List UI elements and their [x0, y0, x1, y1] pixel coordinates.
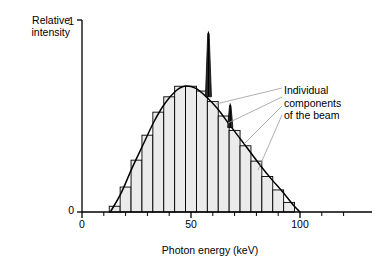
annotation-line-2: components — [284, 97, 380, 110]
annotation-line-1: Individual — [284, 84, 380, 97]
histogram-bar — [229, 130, 240, 212]
y-tick-label-0: 0 — [60, 205, 74, 216]
xray-spectrum-figure: Relative intensity 1 0 0 50 100 Photon e… — [0, 0, 384, 269]
histogram-bar — [207, 102, 218, 212]
y-tick-label-1: 1 — [60, 16, 74, 27]
histogram-bar — [251, 161, 262, 212]
leader-line — [243, 106, 282, 145]
leader-line — [258, 115, 282, 170]
x-axis-label: Photon energy (keV) — [120, 245, 300, 256]
histogram-bar — [164, 97, 175, 212]
histogram-bar — [196, 91, 207, 212]
x-tick-label-50: 50 — [181, 219, 201, 230]
histogram-bar — [273, 190, 284, 212]
histogram-bar — [142, 135, 153, 212]
x-tick-label-100: 100 — [286, 219, 314, 230]
histogram-bar — [186, 86, 197, 212]
histogram-bar — [240, 146, 251, 212]
histogram-bar — [218, 116, 229, 212]
histogram-bar — [175, 86, 186, 212]
y-axis-label-line2: intensity — [31, 26, 70, 38]
leader-line — [228, 97, 282, 123]
x-tick-label-0: 0 — [72, 219, 92, 230]
histogram-bar — [262, 176, 273, 212]
histogram-bar — [153, 112, 164, 212]
annotation-line-3: of the beam — [284, 109, 380, 122]
beam-components-annotation: Individualcomponentsof the beam — [284, 84, 380, 122]
